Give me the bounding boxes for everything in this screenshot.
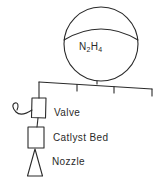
- tank-label: N2H4: [79, 42, 102, 52]
- valve-icon: [32, 98, 47, 118]
- tank-label-h-subscript: 4: [98, 46, 102, 53]
- tank-label-n: N: [79, 41, 87, 52]
- valve-to-bed-line: [37, 118, 38, 127]
- manifold-line: [39, 82, 152, 89]
- nozzle-icon: [28, 149, 43, 176]
- nozzle-label: Nozzle: [52, 157, 85, 167]
- valve-control-wire: [13, 103, 32, 114]
- tank-diaphragm-line: [64, 29, 138, 40]
- catalyst-bed-label: Catlyst Bed: [53, 133, 109, 143]
- valve-label: Valve: [54, 108, 80, 118]
- catalyst-bed-icon: [28, 127, 44, 148]
